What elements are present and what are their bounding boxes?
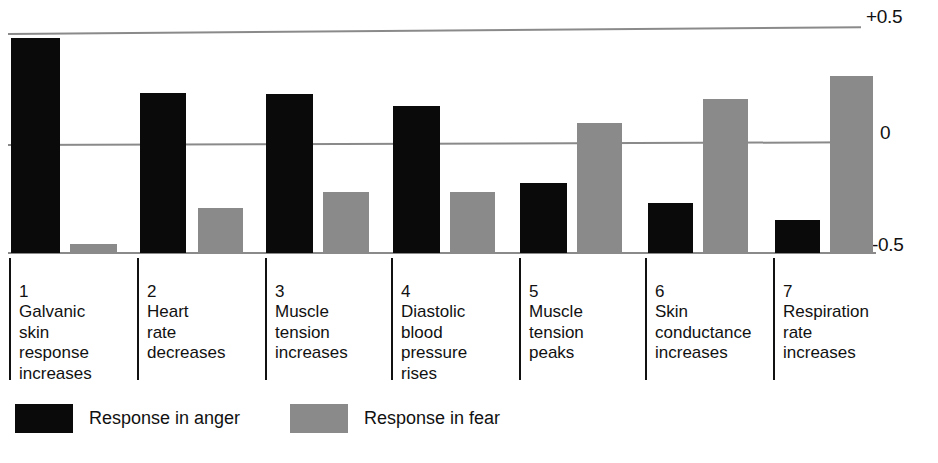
category-divider-3: [265, 258, 267, 380]
tick-label-zero: 0: [880, 122, 890, 144]
bar-anger-5: [520, 183, 567, 253]
bar-anger-6: [648, 203, 693, 253]
legend-item-fear: Response in fear: [290, 404, 500, 433]
tick-label-minus-half: -0.5: [872, 234, 904, 256]
tick-label-plus-half: +0.5: [866, 6, 902, 28]
category-number-5: 5: [529, 282, 641, 303]
bar-anger-3: [266, 94, 313, 253]
bar-anger-1: [11, 38, 60, 253]
chart-legend: Response in anger Response in fear: [0, 404, 938, 444]
gridline-plus-half: [8, 26, 861, 35]
category-divider-1: [9, 258, 11, 380]
category-text-3: Muscle tension increases: [275, 302, 348, 362]
legend-label-anger: Response in anger: [89, 408, 240, 429]
bar-anger-7: [775, 220, 820, 253]
category-divider-6: [645, 258, 647, 380]
category-label-6: 6Skin conductance increases: [655, 261, 773, 364]
category-number-2: 2: [147, 282, 259, 303]
bar-fear-7: [830, 76, 873, 253]
category-label-1: 1Galvanic skin response increases: [19, 261, 131, 384]
bar-fear-2: [198, 208, 243, 253]
category-text-1: Galvanic skin response increases: [19, 302, 92, 383]
category-text-2: Heart rate decreases: [147, 302, 225, 362]
plot-area: +0.5 0 -0.5: [0, 0, 938, 263]
category-text-4: Diastolic blood pressure rises: [401, 302, 467, 383]
category-divider-7: [773, 258, 775, 380]
category-number-7: 7: [783, 282, 913, 303]
category-label-7: 7Respiration rate increases: [783, 261, 913, 364]
category-divider-4: [391, 258, 393, 380]
category-number-1: 1: [19, 282, 131, 303]
category-label-5: 5Muscle tension peaks: [529, 261, 641, 364]
bar-fear-5: [577, 123, 622, 253]
bar-fear-1: [70, 244, 117, 253]
category-text-7: Respiration rate increases: [783, 302, 869, 362]
legend-swatch-anger-icon: [15, 404, 73, 433]
category-text-6: Skin conductance increases: [655, 302, 751, 362]
category-label-4: 4Diastolic blood pressure rises: [401, 261, 513, 384]
bar-fear-6: [703, 99, 748, 253]
legend-swatch-fear-icon: [290, 404, 348, 433]
category-text-5: Muscle tension peaks: [529, 302, 584, 362]
category-divider-5: [519, 258, 521, 380]
category-label-2: 2Heart rate decreases: [147, 261, 259, 364]
bar-anger-4: [393, 106, 440, 253]
category-label-3: 3Muscle tension increases: [275, 261, 387, 364]
bar-anger-2: [140, 93, 186, 253]
bar-fear-4: [450, 192, 495, 253]
category-label-row: 1Galvanic skin response increases 2Heart…: [0, 255, 938, 383]
category-divider-2: [137, 258, 139, 380]
legend-item-anger: Response in anger: [15, 404, 240, 433]
category-number-6: 6: [655, 282, 773, 303]
chart-page: +0.5 0 -0.5 1Galvanic sk: [0, 0, 938, 463]
category-number-3: 3: [275, 282, 387, 303]
legend-label-fear: Response in fear: [364, 408, 500, 429]
bar-fear-3: [323, 192, 369, 253]
category-number-4: 4: [401, 282, 513, 303]
